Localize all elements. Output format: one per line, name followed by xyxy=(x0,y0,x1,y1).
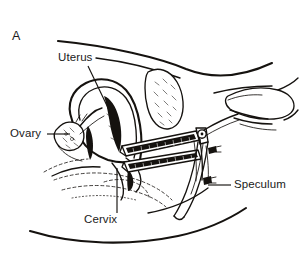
label-speculum: Speculum xyxy=(234,179,286,191)
figure-illustration: A Uterus Ovary Cervix Speculum xyxy=(0,0,300,270)
finger-3 xyxy=(240,124,276,130)
wrist-upper xyxy=(278,78,298,90)
speculum-handle-tip xyxy=(174,216,184,220)
pubic-symphysis-outline xyxy=(104,180,149,197)
bladder-outline xyxy=(145,69,183,129)
cervix-outline-lower xyxy=(112,163,123,200)
speculum-thumbscrew-lower xyxy=(203,176,216,185)
anatomical-line-drawing xyxy=(0,0,300,270)
cervical-os xyxy=(127,170,133,191)
speculum-thumbscrew-upper xyxy=(208,146,221,154)
bladder-structure xyxy=(145,69,183,129)
label-uterus: Uterus xyxy=(58,52,92,64)
label-cervix: Cervix xyxy=(84,214,117,226)
speculum-upper-arm-edge xyxy=(205,120,239,136)
buttock-contour xyxy=(30,208,246,243)
panel-letter: A xyxy=(12,30,20,43)
label-ovary: Ovary xyxy=(10,128,41,140)
speculum-hinge-pin xyxy=(201,133,204,136)
soft-tissue-stipple-1 xyxy=(72,196,136,200)
